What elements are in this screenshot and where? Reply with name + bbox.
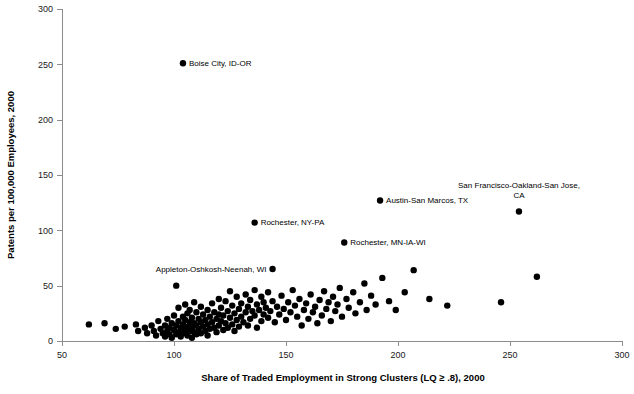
data-point bbox=[274, 303, 280, 309]
data-point bbox=[444, 302, 450, 308]
annotation-label: CA bbox=[513, 191, 525, 200]
data-point bbox=[294, 313, 300, 319]
data-point bbox=[258, 294, 264, 300]
data-point bbox=[363, 307, 369, 313]
data-point bbox=[287, 309, 293, 315]
data-point bbox=[307, 291, 313, 297]
data-point bbox=[498, 299, 504, 305]
y-tick-label-150: 150 bbox=[38, 170, 53, 180]
data-point bbox=[113, 326, 119, 332]
annotation-label: Appleton-Oshkosh-Neenah, WI bbox=[156, 265, 267, 274]
data-point bbox=[298, 322, 304, 328]
y-tick-label-100: 100 bbox=[38, 226, 53, 236]
data-point bbox=[361, 280, 367, 286]
data-point bbox=[242, 309, 248, 315]
annotation-label: Boise City, ID-OR bbox=[189, 59, 252, 68]
data-point bbox=[193, 309, 199, 315]
data-point bbox=[321, 288, 327, 294]
data-point bbox=[312, 303, 318, 309]
data-point-labeled bbox=[269, 266, 275, 272]
data-point bbox=[332, 308, 338, 314]
data-point bbox=[251, 287, 257, 293]
data-point bbox=[339, 313, 345, 319]
data-point bbox=[350, 289, 356, 295]
data-point bbox=[234, 294, 240, 300]
data-point bbox=[86, 321, 92, 327]
x-tick-label-150: 150 bbox=[278, 350, 293, 360]
data-point bbox=[296, 296, 302, 302]
x-axis-title: Share of Traded Employment in Strong Clu… bbox=[201, 372, 484, 383]
annotation-label: Rochester, NY-PA bbox=[261, 218, 325, 227]
data-point bbox=[204, 332, 210, 338]
data-point-labeled bbox=[377, 197, 383, 203]
data-point bbox=[314, 320, 320, 326]
data-point bbox=[393, 307, 399, 313]
y-tick-label-300: 300 bbox=[38, 4, 53, 14]
annotation-label: Rochester, MN-IA-WI bbox=[350, 238, 426, 247]
data-point bbox=[281, 306, 287, 312]
annotation-label: Austin-San Marcos, TX bbox=[386, 196, 469, 205]
data-point bbox=[410, 267, 416, 273]
data-point bbox=[319, 312, 325, 318]
data-point bbox=[260, 299, 266, 305]
data-point bbox=[272, 319, 278, 325]
data-point bbox=[175, 305, 181, 311]
data-point bbox=[346, 305, 352, 311]
point-annotations: Boise City, ID-ORRochester, NY-PARochest… bbox=[156, 59, 580, 274]
data-point bbox=[276, 311, 282, 317]
data-point bbox=[209, 300, 215, 306]
data-points bbox=[86, 60, 540, 341]
data-point bbox=[316, 297, 322, 303]
data-point bbox=[278, 292, 284, 298]
data-point bbox=[265, 289, 271, 295]
data-point bbox=[283, 317, 289, 323]
data-point bbox=[267, 308, 273, 314]
data-point bbox=[238, 300, 244, 306]
data-point-labeled bbox=[251, 219, 257, 225]
data-point bbox=[254, 325, 260, 331]
data-point bbox=[148, 322, 154, 328]
data-point bbox=[142, 325, 148, 331]
data-point bbox=[236, 306, 242, 312]
data-point bbox=[245, 322, 251, 328]
data-point bbox=[135, 328, 141, 334]
data-point bbox=[171, 312, 177, 318]
data-point bbox=[265, 315, 271, 321]
data-point bbox=[330, 294, 336, 300]
data-point bbox=[204, 307, 210, 313]
chart-canvas: 05010015020025030050100150200250300 Bois… bbox=[0, 0, 634, 394]
data-point bbox=[285, 299, 291, 305]
data-point bbox=[198, 303, 204, 309]
y-tick-label-250: 250 bbox=[38, 60, 53, 70]
data-point bbox=[426, 296, 432, 302]
data-point bbox=[229, 302, 235, 308]
data-point bbox=[173, 282, 179, 288]
data-point bbox=[186, 307, 192, 313]
data-point bbox=[402, 289, 408, 295]
data-point-labeled bbox=[180, 60, 186, 66]
data-point bbox=[251, 312, 257, 318]
data-point bbox=[227, 288, 233, 294]
data-point bbox=[305, 316, 311, 322]
data-point bbox=[213, 329, 219, 335]
scatter-chart: 05010015020025030050100150200250300 Bois… bbox=[0, 0, 634, 394]
x-tick-label-300: 300 bbox=[614, 350, 629, 360]
data-point bbox=[534, 274, 540, 280]
data-point bbox=[222, 298, 228, 304]
data-point bbox=[379, 275, 385, 281]
data-point bbox=[189, 315, 195, 321]
data-point bbox=[325, 299, 331, 305]
data-point bbox=[303, 300, 309, 306]
data-point bbox=[290, 287, 296, 293]
data-point bbox=[258, 318, 264, 324]
data-point bbox=[254, 301, 260, 307]
data-point bbox=[101, 320, 107, 326]
data-point bbox=[155, 318, 161, 324]
x-tick-label-50: 50 bbox=[57, 350, 67, 360]
data-point bbox=[343, 296, 349, 302]
data-point bbox=[323, 306, 329, 312]
data-point bbox=[216, 296, 222, 302]
data-point bbox=[301, 307, 307, 313]
y-tick-label-0: 0 bbox=[48, 336, 53, 346]
tick-marks bbox=[57, 10, 623, 347]
